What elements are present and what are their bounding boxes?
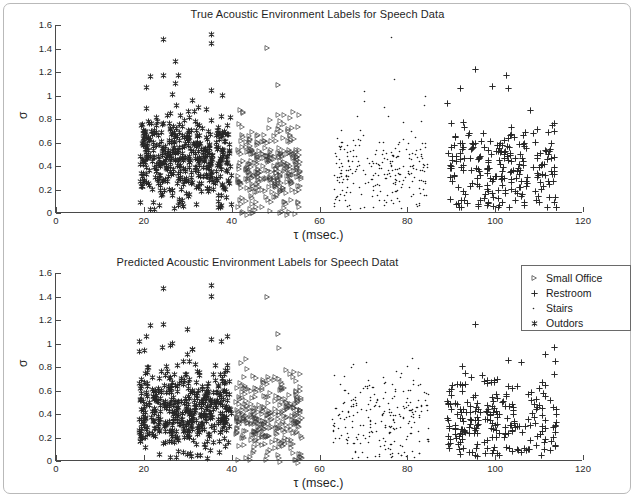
y-tick <box>56 143 61 144</box>
y-tick-label: 0.8 <box>39 114 52 124</box>
data-point-small-office <box>255 412 261 430</box>
data-point-outlier <box>169 333 176 351</box>
data-point-stairs <box>383 430 388 448</box>
data-point-outdors <box>186 157 193 175</box>
data-point-restroom <box>542 344 549 362</box>
y-tick <box>56 49 61 50</box>
legend-item-stairs[interactable]: Stairs <box>522 300 632 316</box>
data-point-outdors <box>194 445 201 463</box>
data-point-stairs <box>391 172 396 190</box>
data-point-outdors <box>213 125 220 143</box>
data-point-stairs <box>342 138 347 156</box>
data-point-outdors <box>189 419 196 437</box>
data-point-outdors <box>154 391 161 409</box>
data-point-outlier <box>389 26 394 44</box>
x-tick-label: 120 <box>575 464 591 474</box>
data-point-restroom <box>516 177 523 195</box>
data-point-restroom <box>494 369 501 387</box>
data-point-stairs <box>407 176 412 194</box>
data-point-outdors <box>165 145 172 163</box>
legend-item-label: Small Office <box>546 272 602 284</box>
data-point-outdors <box>144 417 151 435</box>
data-point-stairs <box>416 357 421 375</box>
data-point-stairs <box>363 163 368 181</box>
data-point-outdors <box>158 361 165 379</box>
data-point-restroom <box>484 409 491 427</box>
data-point-restroom <box>468 160 475 178</box>
x-tick-label: 60 <box>314 216 325 226</box>
data-point-small-office <box>265 392 271 410</box>
y-axis-label-predicted: σ <box>16 360 30 367</box>
x-tick-label: 20 <box>139 216 150 226</box>
data-point-stairs <box>332 364 337 382</box>
data-point-stairs <box>406 394 411 412</box>
data-point-restroom <box>534 119 541 137</box>
data-point-outdors <box>174 355 181 373</box>
y-tick <box>56 273 61 274</box>
y-tick-label: 0.8 <box>39 362 52 372</box>
data-point-outdors <box>213 161 220 179</box>
data-point-restroom <box>444 93 451 111</box>
data-point-outdors <box>227 107 234 125</box>
data-point-restroom <box>509 441 516 459</box>
y-tick <box>56 367 61 368</box>
data-point-restroom <box>547 440 554 458</box>
data-point-outlier <box>275 323 281 341</box>
data-point-restroom <box>509 378 516 396</box>
data-point-restroom <box>476 161 483 179</box>
axes-predicted: 00.20.40.60.811.21.41.6020406080100120 <box>55 273 582 461</box>
data-point-restroom <box>475 194 482 212</box>
data-point-outdors <box>209 145 216 163</box>
data-point-outlier <box>143 77 150 95</box>
data-point-small-office <box>288 437 294 455</box>
legend-item-restroom[interactable]: Restroom <box>522 285 632 301</box>
data-point-outdors <box>139 176 146 194</box>
scatter-plot-true <box>56 25 582 212</box>
panel-true-labels: True Acoustic Environment Labels for Spe… <box>0 0 635 250</box>
data-point-restroom <box>527 100 534 118</box>
data-point-stairs <box>332 164 337 182</box>
legend-item-small-office[interactable]: Small Office <box>522 270 632 286</box>
data-point-restroom <box>459 356 466 374</box>
data-point-outdors <box>177 169 184 187</box>
data-point-stairs <box>357 176 362 194</box>
data-point-outlier <box>160 314 167 332</box>
data-point-outdors <box>208 391 215 409</box>
legend-item-outdors[interactable]: Outdors <box>522 315 632 331</box>
data-point-small-office <box>297 402 303 420</box>
data-point-restroom <box>551 161 558 179</box>
data-point-small-office <box>266 117 272 135</box>
data-point-stairs <box>334 186 339 204</box>
data-point-small-office <box>237 172 243 190</box>
x-tick-label: 80 <box>402 216 413 226</box>
data-point-restroom <box>470 134 477 152</box>
data-point-outdors <box>155 173 162 191</box>
data-point-small-office <box>239 124 245 142</box>
data-point-stairs <box>397 190 402 208</box>
data-point-outdors <box>151 199 158 217</box>
data-point-outlier <box>189 90 196 108</box>
data-point-small-office <box>250 442 256 460</box>
x-tick-label: 120 <box>575 216 591 226</box>
data-point-outdors <box>198 404 205 422</box>
data-point-stairs <box>401 111 406 129</box>
data-point-outdors <box>161 180 168 198</box>
data-point-stairs <box>406 160 411 178</box>
data-point-small-office <box>284 165 290 183</box>
data-point-small-office <box>286 142 292 160</box>
x-tick <box>495 207 496 212</box>
x-tick <box>56 207 57 212</box>
data-point-stairs <box>339 424 344 442</box>
data-point-stairs <box>387 398 392 416</box>
data-point-small-office <box>240 102 246 120</box>
data-point-restroom <box>452 126 459 144</box>
x-tick <box>232 455 233 460</box>
data-point-small-office <box>250 175 256 193</box>
data-point-stairs <box>360 441 365 459</box>
data-point-stairs <box>410 440 415 458</box>
data-point-small-office <box>267 166 273 184</box>
x-tick-label: 0 <box>53 216 58 226</box>
data-point-outlier <box>551 364 558 382</box>
data-point-outdors <box>144 362 151 380</box>
legend-box: Small OfficeRestroomStairsOutdors <box>521 265 631 331</box>
